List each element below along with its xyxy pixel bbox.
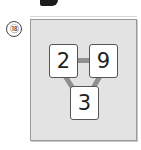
divider [30,16,137,17]
number-card-bottom: 3 [70,86,99,120]
problem-number-badge: ⑱ [6,21,22,37]
puzzle-panel: 2 9 3 [30,19,137,141]
heading-fragment [40,0,58,6]
connector-diagonals [31,20,136,140]
number-card-top-right: 9 [89,44,118,78]
number-card-top-left: 2 [49,44,78,78]
